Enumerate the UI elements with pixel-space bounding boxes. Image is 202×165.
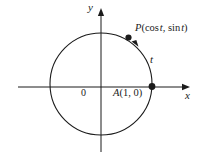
point-p-close-paren: ) [184,22,188,33]
point-a-marker [149,83,156,90]
point-p-cos: cos [145,22,159,33]
y-axis [98,8,104,152]
point-p-sin: sin [168,22,180,33]
point-a-label: A(1, 0) [113,88,142,99]
origin-label: 0 [81,88,86,98]
unit-circle-figure: y x 0 t P(cos t, sin t) A(1, 0) [0,0,202,165]
point-p-marker [125,34,131,40]
x-axis [18,84,190,91]
arc-parameter-label: t [150,54,153,65]
point-p-label: P(cos t, sin t) [135,23,188,34]
y-axis-arrowhead [98,8,104,16]
point-a-close-paren: ) [139,87,143,98]
y-axis-label: y [88,2,93,13]
x-axis-label: x [185,90,190,101]
